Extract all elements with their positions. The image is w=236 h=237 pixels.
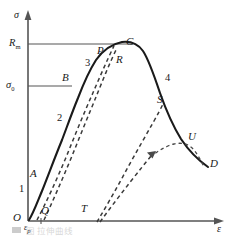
chart-canvas: [0, 0, 236, 237]
segment-label-3: 3: [85, 58, 90, 69]
point-label-q: Q: [41, 205, 49, 216]
point-label-c: C: [126, 36, 133, 47]
segment-label-1: 1: [19, 184, 24, 195]
point-label-d: D: [210, 158, 218, 169]
y-tick-sigma0: σ0: [6, 80, 14, 93]
point-label-r: R: [116, 54, 123, 65]
point-label-u: U: [188, 131, 196, 142]
point-label-t: T: [81, 203, 87, 214]
caption-strip: 图 拉伸曲线: [0, 225, 236, 237]
origin-label: O: [13, 212, 21, 223]
unload-branch-q-outer: [44, 48, 117, 220]
point-label-a: A: [30, 168, 37, 179]
caption-marker: [12, 227, 21, 233]
point-label-b: B: [62, 72, 69, 83]
true-stress-branch-u: [150, 143, 204, 167]
y-axis-arrowhead: [25, 10, 32, 20]
stress-strain-figure: σ ε O Rm σ0 εp A B C D P Q R S T U 1 2 3…: [0, 0, 236, 237]
point-label-s: S: [157, 94, 163, 105]
unload-branch-q-inner: [37, 46, 114, 220]
y-axis-label: σ: [14, 10, 19, 20]
point-label-p: P: [97, 45, 104, 56]
unload-branch-t-to-s: [97, 104, 163, 222]
convergence-arrowhead: [147, 151, 156, 159]
caption-text: 图 拉伸曲线: [26, 225, 73, 236]
y-tick-rm: Rm: [9, 38, 20, 51]
reload-branch-t: [100, 156, 151, 222]
y-tick-sigma0-sub: 0: [11, 85, 14, 92]
y-tick-rm-sub: m: [15, 43, 20, 50]
segment-label-2: 2: [57, 113, 62, 124]
segment-label-4: 4: [165, 73, 170, 84]
